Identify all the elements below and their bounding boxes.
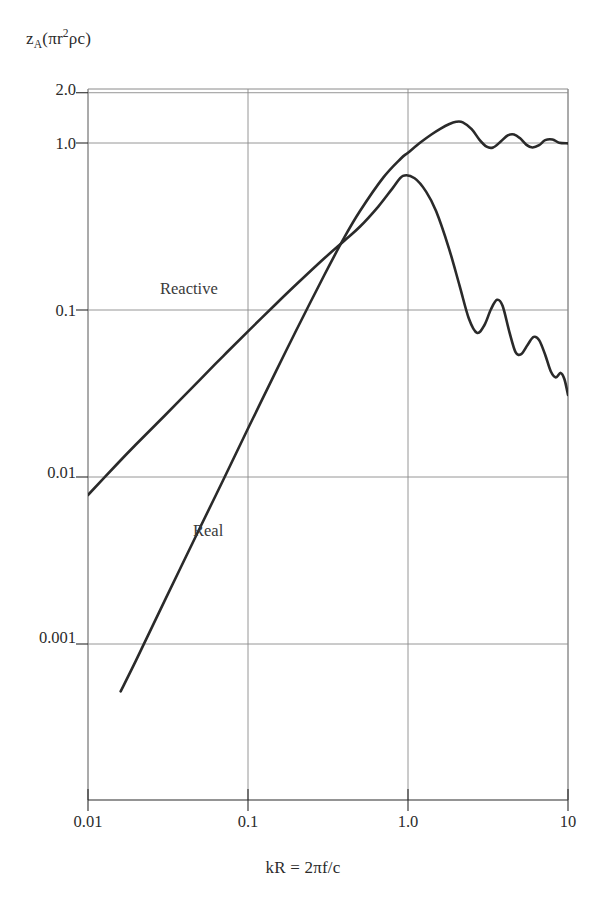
x-tick-label-1.0: 1.0: [368, 812, 448, 832]
y-tick-label-1: 1.0: [0, 134, 76, 154]
y-tick-label-0.001: 0.001: [0, 628, 76, 648]
x-axis-title: kR = 2πf/c: [0, 858, 606, 878]
axis-ticks: [76, 93, 568, 811]
plot-canvas: [0, 0, 606, 905]
y-axis-title-symbol: z: [26, 29, 34, 48]
data-curves: [88, 121, 568, 691]
y-axis-title-open: (πr: [42, 29, 63, 48]
x-tick-label-10: 10: [528, 812, 606, 832]
y-axis-title-subscript: A: [34, 38, 43, 51]
plot-frame: [88, 89, 568, 800]
figure-panel: zA(πr2ρc) kR = 2πf/c 2.0 1.0 0.1 0.01 0.…: [0, 0, 606, 905]
curve-label-real: Real: [193, 521, 223, 541]
y-axis-title: zA(πr2ρc): [26, 29, 91, 49]
y-tick-label-2: 2.0: [0, 80, 76, 100]
curve-reactive: [88, 175, 568, 495]
x-tick-label-0.1: 0.1: [208, 812, 288, 832]
y-axis-title-close: ρc): [69, 29, 91, 48]
x-tick-label-0.01: 0.01: [48, 812, 128, 832]
y-tick-label-0.1: 0.1: [0, 301, 76, 321]
y-tick-label-0.01: 0.01: [0, 463, 76, 483]
curve-real: [121, 121, 568, 691]
grid-lines: [88, 89, 568, 800]
curve-label-reactive: Reactive: [160, 279, 218, 299]
